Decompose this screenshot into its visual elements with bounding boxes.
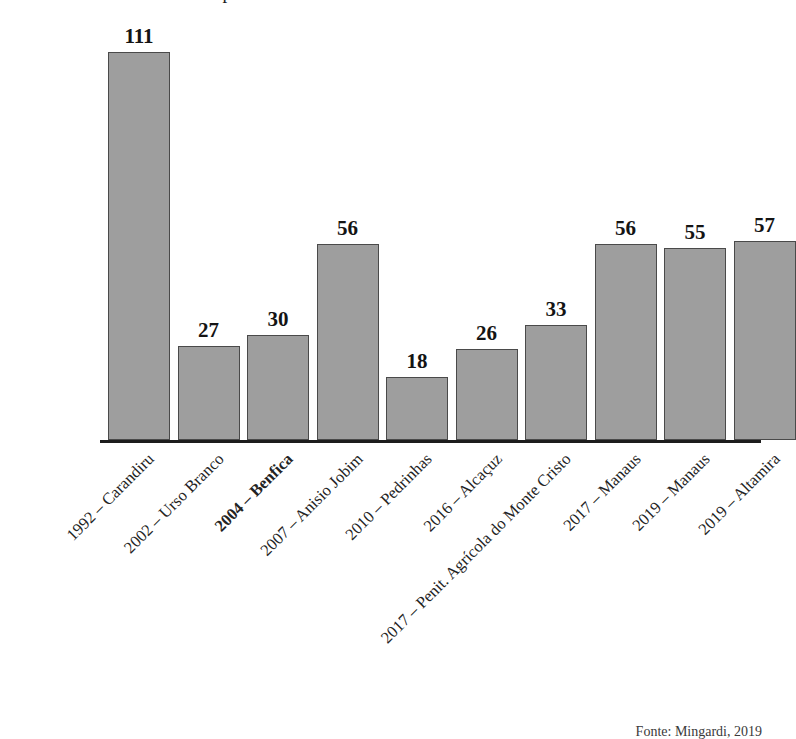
bar-value-label: 30	[247, 308, 309, 330]
bar-value-label: 111	[108, 25, 170, 47]
bar	[317, 244, 379, 440]
bar-value-label: 18	[386, 350, 448, 372]
bar-value-label: 26	[456, 322, 518, 344]
x-axis-line	[100, 440, 761, 443]
bar	[595, 244, 657, 440]
bar-group: 18	[386, 0, 448, 440]
bar-group: 111	[108, 0, 170, 440]
source-note: Fonte: Mingardi, 2019	[636, 724, 762, 739]
bar-value-label: 55	[664, 221, 726, 243]
bar	[734, 241, 796, 441]
bar-group: 56	[595, 0, 657, 440]
bar	[525, 325, 587, 441]
bar-group: 57	[734, 0, 796, 440]
bar-value-label: 27	[178, 319, 240, 341]
bar-group: 30	[247, 0, 309, 440]
bar-value-label: 56	[595, 217, 657, 239]
bar-value-label: 57	[734, 214, 796, 236]
bar-group: 33	[525, 0, 587, 440]
bar	[247, 335, 309, 440]
bar	[178, 346, 240, 441]
bar	[664, 248, 726, 441]
bar-value-label: 56	[317, 217, 379, 239]
bar	[108, 52, 170, 441]
bar-group: 27	[178, 0, 240, 440]
bar-value-label: 33	[525, 298, 587, 320]
bar	[456, 349, 518, 440]
bar	[386, 377, 448, 440]
bar-group: 26	[456, 0, 518, 440]
bar-group: 55	[664, 0, 726, 440]
bar-group: 56	[317, 0, 379, 440]
